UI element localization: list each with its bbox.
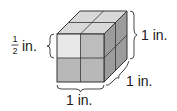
front-cell-bottom-left xyxy=(57,58,81,82)
height-label: 1 in. xyxy=(141,27,167,43)
width-label: 1 in. xyxy=(66,92,92,108)
width-brace xyxy=(57,85,104,92)
half-denominator: 2 xyxy=(12,46,17,56)
front-cell-top-right xyxy=(81,34,105,58)
front-cell-bottom-right xyxy=(81,58,105,82)
depth-label: 1 in. xyxy=(126,73,152,89)
half-numerator: 1 xyxy=(12,34,17,44)
front-cell-top-left xyxy=(57,34,81,58)
height-brace xyxy=(130,11,137,59)
cube-diagram: 1 2 in. 1 in. 1 in. 1 in. xyxy=(0,0,177,111)
half-inch-brace xyxy=(47,34,54,58)
half-inch-unit: in. xyxy=(22,38,37,54)
